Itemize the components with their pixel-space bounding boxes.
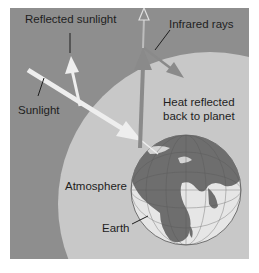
label-heat-reflected-line1: Heat reflected	[163, 96, 235, 108]
label-sunlight: Sunlight	[18, 104, 60, 116]
label-heat-reflected-line2: back to planet	[163, 110, 235, 122]
label-atmosphere: Atmosphere	[65, 180, 127, 192]
label-earth: Earth	[102, 222, 130, 234]
greenhouse-diagram: Reflected sunlight Sunlight Infrared ray…	[10, 8, 249, 259]
label-reflected-sunlight: Reflected sunlight	[25, 13, 117, 25]
diagram-canvas: Reflected sunlight Sunlight Infrared ray…	[10, 8, 249, 259]
label-infrared-rays: Infrared rays	[169, 18, 234, 30]
